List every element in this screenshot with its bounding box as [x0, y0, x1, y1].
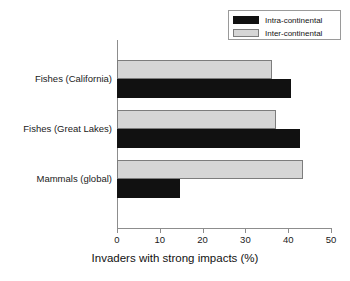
x-tick-label-0: 0 [114, 234, 119, 245]
x-tick-label-50: 50 [326, 234, 337, 245]
x-axis-spine [117, 228, 332, 229]
x-tick-mark-40 [288, 229, 289, 233]
y-axis-label-1: Fishes (Great Lakes) [0, 123, 112, 134]
legend-label-intra-continental: Intra-continental [265, 16, 322, 25]
bar-chart: Intra-continental Inter-continental Fish… [0, 0, 350, 281]
x-tick-mark-50 [331, 229, 332, 233]
x-tick-label-30: 30 [240, 234, 251, 245]
bar-intra-continental [117, 179, 180, 198]
x-tick-mark-10 [160, 229, 161, 233]
legend-swatch-inter-continental [233, 29, 259, 37]
legend-item-inter-continental: Inter-continental [233, 27, 336, 39]
y-axis-label-2: Mammals (global) [0, 173, 112, 184]
x-axis-title: Invaders with strong impacts (%) [0, 252, 350, 264]
legend-swatch-intra-continental [233, 16, 259, 24]
bar-intra-continental [117, 79, 291, 98]
x-tick-label-10: 10 [155, 234, 166, 245]
x-tick-mark-0 [117, 229, 118, 233]
x-tick-label-20: 20 [197, 234, 208, 245]
bar-inter-continental [117, 60, 272, 79]
plot-area [117, 40, 331, 228]
legend-label-inter-continental: Inter-continental [265, 29, 322, 38]
x-tick-mark-20 [203, 229, 204, 233]
bar-intra-continental [117, 129, 300, 148]
chart-legend: Intra-continental Inter-continental [228, 10, 341, 40]
y-axis-label-0: Fishes (California) [0, 73, 112, 84]
x-tick-label-40: 40 [283, 234, 294, 245]
x-tick-mark-30 [245, 229, 246, 233]
bar-inter-continental [117, 110, 276, 129]
legend-item-intra-continental: Intra-continental [233, 14, 336, 26]
bar-inter-continental [117, 160, 303, 179]
